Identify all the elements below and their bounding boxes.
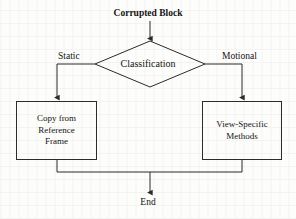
process-box-view-specific-methods[interactable]: View-Specific Methods — [202, 101, 282, 160]
branch-label-static: Static — [58, 51, 80, 61]
connector-merge-to-end — [57, 160, 242, 193]
start-node-label: Corrupted Block — [0, 8, 296, 18]
end-node-label: End — [0, 197, 296, 207]
process-box-right-label: View-Specific Methods — [216, 119, 267, 142]
branch-label-motional: Motional — [222, 51, 257, 61]
connector-decision-to-right-process — [205, 64, 242, 98]
process-box-left-label: Copy from Reference Frame — [37, 113, 76, 148]
connector-decision-to-left-process — [57, 64, 95, 98]
flowchart-page: Corrupted Block Classification Static Mo… — [0, 0, 296, 219]
process-box-copy-from-reference-frame[interactable]: Copy from Reference Frame — [16, 101, 97, 160]
